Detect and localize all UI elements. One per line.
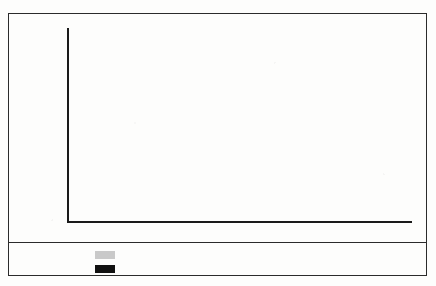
- plot-area: [67, 28, 412, 223]
- legend-item-non-specialists: [95, 262, 122, 276]
- light-gray-swatch-icon: [95, 251, 115, 259]
- legend-item-video-specialty-stores: [95, 248, 122, 262]
- legend-divider: [9, 242, 426, 243]
- x-axis-line: [67, 221, 412, 223]
- figure-frame: [8, 13, 427, 276]
- black-swatch-icon: [95, 265, 115, 273]
- legend: [95, 248, 122, 276]
- bar-series-group: [67, 28, 412, 221]
